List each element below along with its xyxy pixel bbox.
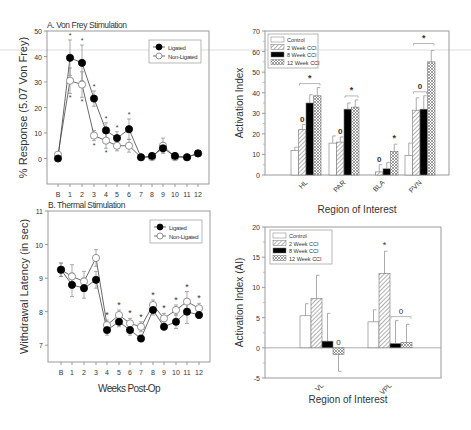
legend-filled-circle-icon — [157, 224, 163, 230]
bar — [413, 110, 421, 175]
x-tick-label: 4 — [104, 191, 108, 198]
y-tick-label: 20 — [252, 131, 260, 138]
significance-star: * — [350, 85, 354, 95]
bar — [376, 172, 384, 175]
bar — [291, 150, 299, 175]
y-axis-label: % Response (5.07 Von Frey) — [17, 37, 29, 178]
ligated-point — [126, 327, 133, 334]
x-tick-label: 11 — [183, 191, 190, 198]
y-tick-label: 10 — [252, 284, 260, 291]
category-label: VL — [314, 382, 325, 393]
non-ligated-point — [115, 311, 122, 318]
ligated-point — [80, 285, 87, 292]
bar — [390, 344, 401, 348]
ligated-point — [148, 152, 155, 159]
significance-star: * — [69, 94, 72, 101]
ligated-point — [159, 145, 166, 152]
ligated-point — [90, 95, 97, 102]
category-label: PVN — [408, 179, 423, 194]
bar — [344, 109, 352, 175]
y-tick-label: 70 — [252, 28, 260, 35]
significance-bracket — [345, 96, 358, 98]
non-ligated-point — [172, 306, 179, 313]
ligated-point — [137, 154, 144, 161]
legend-label: Control — [287, 37, 305, 43]
ligated-point — [92, 276, 99, 283]
ligated-point — [195, 311, 202, 318]
y-tick-label: 9 — [39, 275, 43, 282]
x-tick-label: 2 — [82, 369, 86, 376]
bar — [300, 316, 311, 348]
bar — [322, 341, 333, 348]
ligated-point — [57, 266, 64, 273]
significance-zero: 0 — [377, 155, 382, 164]
x-tick-label: 4 — [105, 369, 109, 376]
legend-box — [150, 220, 202, 243]
significance-star: * — [69, 32, 72, 39]
non-ligated-point — [68, 273, 75, 280]
significance-zero: 0 — [399, 307, 404, 316]
legend-open-circle-icon — [157, 233, 163, 239]
ligated-point — [137, 335, 144, 342]
bar — [329, 143, 337, 175]
y-tick-label: 11 — [36, 208, 43, 215]
y-axis-label: Activation Index (AI) — [234, 258, 245, 347]
non-ligated-point — [66, 77, 73, 84]
x-axis-label: Weeks Post-Op — [98, 383, 161, 394]
x-tick-label: B — [56, 191, 61, 198]
x-tick-label: 12 — [194, 191, 202, 198]
significance-star: * — [139, 312, 143, 322]
bar — [368, 322, 379, 348]
ligated-point — [171, 152, 178, 159]
category-label: PAR — [332, 179, 347, 194]
ligated-point — [66, 54, 73, 61]
ligated-point — [113, 135, 120, 142]
chart-b-thermal: B. Thermal Stimulation7891011B1234567891… — [18, 200, 210, 394]
significance-zero: 0 — [338, 127, 343, 136]
y-tick-label: 60 — [252, 49, 260, 56]
legend-label: 12 Week CCI — [287, 60, 320, 66]
bar — [420, 109, 428, 175]
y-tick-label: 0 — [256, 345, 260, 352]
significance-bracket — [414, 92, 427, 94]
legend-swatch-icon — [271, 52, 284, 57]
bar — [401, 342, 412, 347]
bar — [352, 107, 360, 175]
non-ligated-point — [195, 305, 202, 312]
y-tick-label: 50 — [34, 28, 42, 35]
non-ligated-point — [90, 132, 97, 139]
x-tick-label: 10 — [171, 191, 179, 198]
y-tick-label: 20 — [252, 224, 260, 231]
x-tick-label: 3 — [94, 369, 98, 376]
y-tick-label: 7 — [39, 342, 43, 349]
significance-star: * — [116, 124, 119, 131]
bar — [337, 142, 345, 175]
ligated-point — [160, 323, 167, 330]
legend-label: 8 Week CCI — [289, 248, 319, 254]
y-tick-label: -5 — [254, 375, 260, 382]
x-tick-label: 12 — [195, 369, 203, 376]
legend-label: Ligated — [169, 225, 187, 231]
x-tick-label: 5 — [117, 369, 121, 376]
bar — [428, 62, 436, 175]
y-axis-label: Withdrawal Latency (in sec) — [18, 219, 30, 354]
chart-c-activation-index: 010203040506070Activation IndexRegion of… — [234, 28, 449, 215]
x-tick-label: 7 — [139, 191, 143, 198]
significance-bracket — [414, 44, 435, 46]
x-tick-label: 6 — [127, 191, 131, 198]
x-tick-label: 9 — [161, 191, 165, 198]
legend-label: 8 Week CCI — [287, 52, 317, 58]
legend-label: Non-Ligated — [168, 54, 197, 60]
significance-zero: 0 — [418, 82, 423, 91]
legend-box — [149, 40, 201, 63]
legend-swatch-icon — [273, 241, 286, 246]
chart-a-von-frey: A. Von Frey Stimulation01020304050B12345… — [17, 20, 209, 198]
significance-star: * — [81, 98, 84, 105]
bar — [311, 298, 322, 348]
ligated-point — [183, 154, 190, 161]
non-ligated-point — [113, 142, 120, 149]
ligated-point — [102, 127, 109, 134]
significance-star: * — [128, 111, 131, 118]
y-tick-label: 15 — [252, 254, 260, 261]
significance-star: * — [117, 300, 121, 310]
